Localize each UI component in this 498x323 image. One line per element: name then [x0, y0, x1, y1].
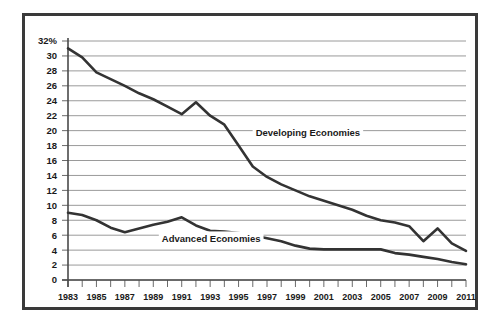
series-label: Developing Economies [256, 127, 361, 138]
y-axis-tick-label: 8 [52, 215, 57, 226]
y-axis-tick-label: 10 [46, 200, 57, 211]
y-axis-tick-label: 0 [52, 274, 57, 285]
y-axis-tick-label: 14 [46, 170, 57, 181]
x-axis-ticks-group [68, 280, 466, 287]
y-axis-tick-label: 2 [52, 259, 57, 270]
x-axis-tick-label: 1987 [115, 292, 135, 302]
y-axis-tick-label: 28 [46, 65, 57, 76]
x-axis-tick-label: 1985 [86, 292, 106, 302]
x-axis-tick-label: 1993 [200, 292, 220, 302]
y-axis-tick-label: 20 [46, 125, 57, 136]
y-axis-tick-label: 18 [46, 140, 57, 151]
x-axis-labels-group: 1983198519871989199119931995199719992001… [58, 292, 476, 302]
series-label: Advanced Economies [162, 233, 261, 244]
y-axis-tick-label: 26 [46, 80, 57, 91]
x-axis-tick-label: 1983 [58, 292, 78, 302]
gridlines-group [68, 41, 466, 280]
x-axis-tick-label: 1999 [285, 292, 305, 302]
x-axis-tick-label: 1995 [229, 292, 249, 302]
y-axis-tick-label: 12 [46, 185, 57, 196]
x-axis-tick-label: 1997 [257, 292, 277, 302]
x-axis-tick-label: 2007 [399, 292, 419, 302]
y-axis-tick-label: 16 [46, 155, 57, 166]
chart-svg: 32%302826242220181614121086420 198319851… [0, 0, 498, 323]
y-axis-ticks-group [62, 41, 68, 280]
y-axis-tick-label: 30 [46, 50, 57, 61]
x-axis-tick-label: 2011 [456, 292, 476, 302]
x-axis-tick-label: 2001 [314, 292, 334, 302]
y-axis-labels-group: 32%302826242220181614121086420 [38, 35, 58, 285]
y-axis-tick-label: 4 [52, 245, 58, 256]
x-axis-tick-label: 2005 [371, 292, 391, 302]
y-axis-tick-label: 6 [52, 230, 57, 241]
x-axis-tick-label: 2003 [342, 292, 362, 302]
line-chart: 32%302826242220181614121086420 198319851… [0, 0, 498, 323]
y-axis-tick-label: 32% [38, 35, 58, 46]
data-series-group [68, 48, 466, 264]
x-axis-tick-label: 1991 [172, 292, 192, 302]
x-axis-tick-label: 1989 [143, 292, 163, 302]
x-axis-tick-label: 2009 [428, 292, 448, 302]
series-labels-group: Developing EconomiesAdvanced Economies [159, 125, 363, 245]
y-axis-tick-label: 22 [46, 110, 57, 121]
y-axis-tick-label: 24 [46, 95, 57, 106]
